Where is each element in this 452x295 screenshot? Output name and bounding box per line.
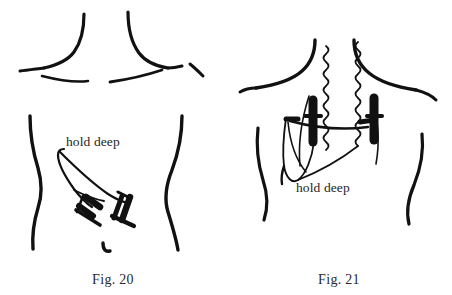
navel-mark — [103, 243, 110, 251]
suture-thread-left — [324, 46, 329, 150]
shoulder-left-contour — [240, 88, 256, 92]
figure-caption-fig-20: Fig. 20 — [0, 273, 226, 287]
figure-caption-fig-21: Fig. 21 — [226, 273, 452, 287]
torso-right-contour — [166, 116, 182, 250]
torso-left-contour — [30, 116, 41, 249]
shoulder-right-tail — [190, 64, 203, 76]
neck-right-contour — [128, 12, 168, 68]
tissue-flap-lower-tail — [282, 166, 284, 184]
incision-flap-upper-edge — [60, 152, 128, 203]
torso-right-contour — [408, 134, 423, 224]
clavicle-left-curve — [42, 76, 88, 82]
figure-panel-fig-20: hold deep Fig. 20 — [0, 0, 226, 295]
torso-left-contour — [257, 128, 267, 220]
annotation-hold-deep-fig-20: hold deep — [66, 135, 120, 149]
fig-20-artwork — [0, 0, 226, 262]
clavicle-right-curve — [110, 70, 162, 82]
surgical-clamp-left — [76, 196, 100, 225]
shoulder-right-contour — [168, 66, 182, 68]
tissue-flap-cut-edge — [298, 146, 358, 180]
shoulder-right-contour — [416, 90, 436, 100]
neck-right-contour — [354, 40, 416, 90]
fig-21-artwork — [226, 0, 452, 262]
shoulder-left-contour — [20, 68, 44, 71]
neck-left-contour — [256, 40, 315, 88]
annotation-hold-deep-fig-21: hold deep — [296, 181, 350, 195]
neck-left-contour — [44, 14, 84, 68]
chest-wall-left — [299, 96, 309, 166]
figure-panel-fig-21: hold deep Fig. 21 — [226, 0, 452, 295]
figure-sheet: hold deep Fig. 20 — [0, 0, 452, 295]
tissue-flap-inner-edge — [288, 122, 306, 172]
